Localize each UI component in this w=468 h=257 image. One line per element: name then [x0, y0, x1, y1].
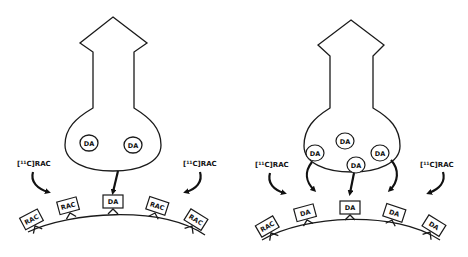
vesicle-da: DA	[80, 135, 98, 151]
vesicle-da: DA	[336, 133, 354, 149]
svg-text:DA: DA	[84, 140, 94, 148]
svg-text:DA: DA	[351, 162, 361, 170]
panel-stimulated: DA DA DA DA [11C]RAC [11C]RAC RAC	[255, 20, 454, 243]
presynaptic-neuron	[65, 17, 161, 171]
receptor: RAC	[180, 209, 208, 237]
svg-text:DA: DA	[340, 138, 350, 146]
tracer-label: [11C]RAC	[420, 161, 454, 170]
receptor: DA	[418, 215, 446, 243]
release-arrow	[350, 173, 354, 193]
postsynaptic-membrane	[28, 215, 205, 235]
tracer-arrow-icon	[429, 172, 444, 193]
tracer-label: [11C]RAC	[17, 160, 51, 169]
tracer-label: [11C]RAC	[183, 160, 217, 169]
vesicle-da: DA	[124, 137, 142, 153]
receptor: DA	[340, 201, 360, 220]
vesicle-da: DA	[371, 145, 389, 161]
svg-text:DA: DA	[345, 204, 355, 212]
release-arrow	[113, 171, 118, 192]
vesicle-da: DA	[347, 157, 365, 173]
svg-text:DA: DA	[375, 150, 385, 158]
postsynaptic-membrane	[262, 219, 440, 240]
vesicle-da: DA	[306, 145, 324, 161]
tracer-arrow-icon	[186, 172, 201, 192]
tracer-arrow-icon	[269, 173, 284, 193]
svg-text:DA: DA	[310, 150, 320, 158]
tracer-arrow-icon	[32, 172, 48, 192]
receptor: RAC	[255, 216, 282, 243]
svg-text:DA: DA	[108, 198, 118, 206]
receptor: RAC	[20, 209, 47, 236]
receptor: RAC	[57, 197, 81, 221]
receptor: DA	[103, 195, 123, 214]
panel-baseline: DA DA [11C]RAC [11C]RAC RAC RAC	[17, 17, 217, 236]
diagram-canvas: DA DA [11C]RAC [11C]RAC RAC RAC	[0, 0, 468, 257]
tracer-label: [11C]RAC	[255, 161, 289, 170]
release-arrow	[390, 160, 397, 190]
release-arrow	[307, 162, 314, 190]
svg-text:DA: DA	[128, 142, 138, 150]
